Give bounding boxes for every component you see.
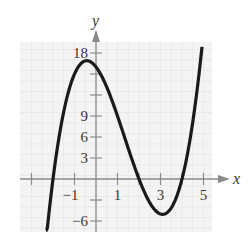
x-tick-label: −1 bbox=[63, 187, 79, 203]
y-tick-label: 6 bbox=[81, 129, 89, 145]
y-axis-arrow bbox=[92, 30, 100, 42]
y-tick-label: −6 bbox=[72, 213, 88, 229]
x-axis-label: x bbox=[232, 170, 240, 187]
x-axis-arrow bbox=[218, 175, 230, 183]
y-tick-label: 18 bbox=[73, 45, 88, 61]
y-tick-label: 9 bbox=[81, 108, 89, 124]
x-tick-label: 3 bbox=[157, 187, 165, 203]
chart: −113518963−6 x y bbox=[0, 0, 250, 245]
y-axis-label: y bbox=[90, 12, 100, 30]
x-tick-label: 1 bbox=[114, 187, 122, 203]
x-tick-label: 5 bbox=[200, 187, 208, 203]
y-tick-label: 3 bbox=[81, 150, 89, 166]
